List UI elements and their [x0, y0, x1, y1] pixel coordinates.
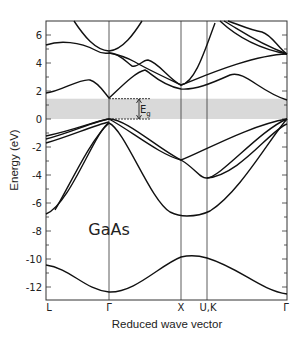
- y-tick-labels: 6 4 2 0 -2 -4 -6 -8 -10 -12: [26, 30, 42, 293]
- band-2: [46, 119, 287, 216]
- y-tick-label: 4: [36, 58, 42, 69]
- material-label: GaAs: [88, 220, 129, 239]
- band-1: [46, 256, 287, 294]
- band-3b: [207, 124, 287, 178]
- y-tick-label: 0: [36, 114, 42, 125]
- y-tick-label: -2: [32, 142, 42, 153]
- x-tick-labels: L Γ X U,K Γ: [46, 302, 289, 313]
- y-tick-label: 6: [36, 30, 42, 41]
- x-tick-label-UK: U,K: [199, 302, 216, 313]
- x-tick-label-gamma: Γ: [106, 302, 112, 313]
- band-6: [46, 23, 215, 85]
- band-curves: [46, 21, 287, 294]
- band-7: [109, 53, 287, 85]
- y-tick-label: -4: [32, 170, 42, 181]
- band-9: [220, 21, 287, 54]
- y-tick-label: -8: [32, 226, 42, 237]
- y-tick-label: -10: [26, 254, 42, 265]
- y-tick-label: 2: [36, 86, 42, 97]
- band-10: [224, 21, 287, 54]
- x-tick-label-X: X: [178, 302, 185, 313]
- band-gap-region: [46, 99, 287, 119]
- y-tick-label: -12: [26, 282, 42, 293]
- band-structure-chart: 6 4 2 0 -2 -4 -6 -8 -10 -12 Energy (eV) …: [0, 0, 305, 342]
- band-11: [228, 21, 287, 54]
- y-axis-ticks-right: [282, 35, 287, 287]
- band-8: [74, 21, 142, 51]
- x-axis-title: Reduced wave vector: [112, 318, 223, 330]
- y-axis-ticks-left: [46, 35, 51, 287]
- y-tick-label: -6: [32, 198, 42, 209]
- x-tick-label-gamma-end: Γ: [283, 302, 289, 313]
- y-axis-title: Energy (eV): [8, 129, 20, 191]
- x-tick-label-L: L: [46, 302, 52, 313]
